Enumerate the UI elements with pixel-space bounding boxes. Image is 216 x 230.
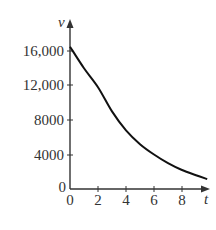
x-tick-label: 2 bbox=[94, 192, 102, 208]
y-axis-arrow-icon bbox=[67, 19, 74, 28]
y-tick-label: 8000 bbox=[34, 112, 64, 128]
y-tick-label: 16,000 bbox=[23, 43, 64, 59]
x-tick-label: 8 bbox=[178, 192, 186, 208]
x-tick-labels: 0 2 4 6 8 bbox=[66, 192, 186, 208]
decay-curve bbox=[70, 47, 207, 179]
y-tick-label: 0 bbox=[59, 179, 67, 195]
x-tick-label: 4 bbox=[122, 192, 130, 208]
x-tick-label: 0 bbox=[66, 192, 74, 208]
x-axis-label: t bbox=[204, 191, 209, 207]
y-axis-label: v bbox=[58, 14, 65, 30]
exponential-decay-chart: v t 16,000 12,000 8000 4000 0 0 2 4 6 8 bbox=[0, 0, 216, 230]
y-tick-labels: 16,000 12,000 8000 4000 0 bbox=[23, 43, 66, 195]
x-tick-label: 6 bbox=[150, 192, 158, 208]
y-tick-label: 12,000 bbox=[23, 77, 64, 93]
y-tick-label: 4000 bbox=[34, 147, 64, 163]
